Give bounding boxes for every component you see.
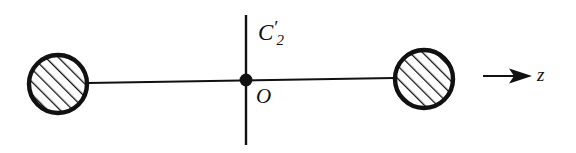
diatomic-symmetry-diagram bbox=[0, 0, 576, 153]
figure-canvas: C′2 O z bbox=[0, 0, 576, 153]
origin-point-dot bbox=[240, 74, 253, 87]
